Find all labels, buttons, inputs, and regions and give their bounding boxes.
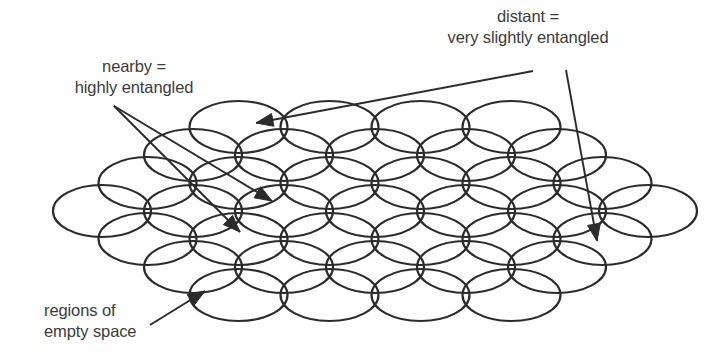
label-distant: distant = very slightly entangled	[428, 6, 628, 48]
label-regions-line2: empty space	[44, 321, 136, 342]
label-regions-of-empty-space: regions of empty space	[44, 300, 136, 342]
label-nearby-line1: nearby =	[64, 56, 204, 77]
distant-arrow-long-shaft	[256, 71, 533, 123]
label-distant-line1: distant =	[428, 6, 628, 27]
distant-arrow-short-head	[588, 223, 601, 241]
diagram-canvas: nearby = highly entangled distant = very…	[0, 0, 722, 361]
distant-arrow-long-head	[256, 113, 274, 126]
label-nearby-line2: highly entangled	[64, 77, 204, 98]
label-regions-line1: regions of	[44, 300, 136, 321]
label-distant-line2: very slightly entangled	[428, 27, 628, 48]
ellipse-lattice	[53, 101, 697, 321]
label-nearby: nearby = highly entangled	[64, 56, 204, 98]
